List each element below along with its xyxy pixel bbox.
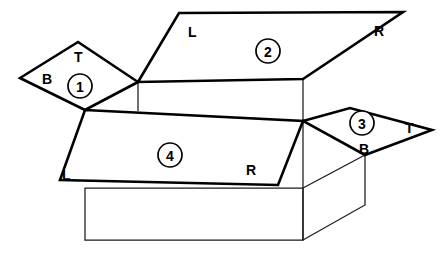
flap-4-label-left: L	[62, 167, 71, 183]
flap-3-label-top: T	[405, 120, 414, 136]
flap-1-badge-label: 1	[76, 79, 84, 95]
box-flap-diagram: 1 T B 2 L R 3 T B 4 L R	[0, 0, 446, 256]
box-front-fill	[85, 188, 303, 240]
flap-2-label-right: R	[374, 23, 384, 39]
flap-4-label-right: R	[246, 162, 256, 178]
flap-3-label-bottom: B	[359, 141, 369, 157]
flap-2-badge-label: 2	[264, 44, 272, 60]
box-right-side-fill	[303, 155, 365, 240]
flap-3-badge-label: 3	[358, 116, 366, 132]
flap-2-label-left: L	[188, 24, 197, 40]
flap-1-label-top: T	[74, 49, 83, 65]
flap-4-badge-label: 4	[166, 148, 174, 164]
diagram-root: 1 T B 2 L R 3 T B 4 L R	[0, 0, 446, 256]
flap-1-label-bottom: B	[42, 71, 52, 87]
flap-4-fill	[60, 110, 303, 185]
